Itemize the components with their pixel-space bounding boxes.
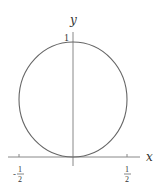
x-axis-label: x	[146, 150, 153, 164]
y-axis-label: y	[69, 13, 77, 27]
x-tick-pos-den: 2	[125, 175, 129, 184]
y-tick-label: 1	[64, 32, 69, 43]
diagram-canvas: y x 1 - 1 2 1 2	[0, 0, 164, 190]
x-tick-pos-num: 1	[125, 165, 129, 174]
x-tick-neg-num: 1	[18, 165, 22, 174]
x-tick-neg-den: 2	[18, 175, 22, 184]
x-tick-neg-sign: -	[13, 169, 16, 179]
